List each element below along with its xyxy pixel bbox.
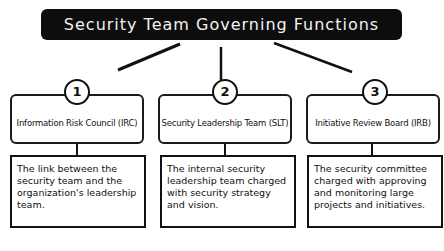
function-description-irb: The security committee charged with appr…: [307, 155, 443, 228]
function-number-1: 1: [64, 79, 90, 105]
function-description-irc: The link between the security team and t…: [10, 155, 146, 228]
diagram-title: Security Team Governing Functions: [41, 9, 402, 40]
function-number-2: 2: [212, 79, 238, 105]
function-description-slt: The internal security leadership team ch…: [160, 155, 296, 228]
function-number-3: 3: [362, 79, 388, 105]
